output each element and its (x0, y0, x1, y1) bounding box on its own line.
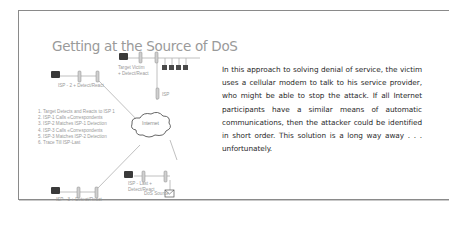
caption-text: In this approach to solving denial of se… (222, 63, 422, 155)
isp-label: ISP (162, 92, 169, 98)
dos-source-label: DoS Source (144, 191, 169, 197)
computer-icon (162, 65, 188, 70)
isp2-label: ISP - 2 + Detect/React (58, 83, 104, 89)
isp3-label: ISP - 3 + Detect/React (56, 197, 102, 203)
trace-step: 3. ISP-2 Matches ISP-1 Detection (38, 121, 115, 127)
trace-steps-list: 1. Target Detects and Reacts to ISP 1 2.… (38, 109, 115, 146)
internet-label: Internet (142, 121, 159, 127)
trace-step: 6. Trace Till ISP-Last (38, 140, 115, 146)
target-victim-label: Target Victim + Detect/React (118, 65, 149, 76)
